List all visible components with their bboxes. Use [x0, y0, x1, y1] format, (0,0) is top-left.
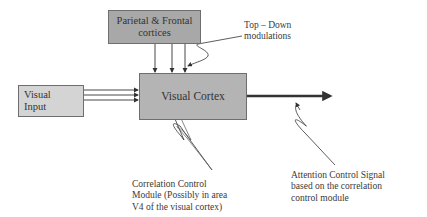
visual-input-line1: Visual	[24, 89, 51, 100]
top-down-arrows	[155, 44, 185, 72]
visual-input-box: VisualInput	[18, 85, 84, 117]
attention-line3: control module	[291, 193, 349, 203]
correlation-annotation: Correlation Control Module (Possibly in …	[132, 179, 227, 213]
correlation-line3: V4 of the visual cortex)	[132, 202, 222, 212]
attention-annotation: Attention Control Signal based on the co…	[291, 170, 385, 204]
correlation-line1: Correlation Control	[132, 179, 207, 189]
parietal-line2: cortices	[138, 27, 171, 38]
parietal-line1: Parietal & Frontal	[117, 15, 193, 26]
attention-leader	[295, 103, 335, 165]
top-down-line2: modulations	[244, 31, 291, 41]
visual-input-line2: Input	[24, 101, 46, 112]
attention-line2: based on the correlation	[291, 181, 382, 191]
parietal-frontal-cortices-box: Parietal & Frontalcortices	[108, 10, 201, 44]
correlation-leader	[173, 113, 212, 170]
attention-line1: Attention Control Signal	[291, 170, 385, 180]
visual-cortex-label: Visual Cortex	[161, 90, 225, 103]
correlation-line2: Module (Possibly in area	[132, 190, 227, 200]
top-down-line1: Top – Down	[244, 20, 291, 30]
input-arrows	[79, 90, 138, 100]
visual-cortex-box: Visual Cortex	[139, 73, 247, 120]
top-down-annotation: Top – Down modulations	[244, 20, 291, 43]
